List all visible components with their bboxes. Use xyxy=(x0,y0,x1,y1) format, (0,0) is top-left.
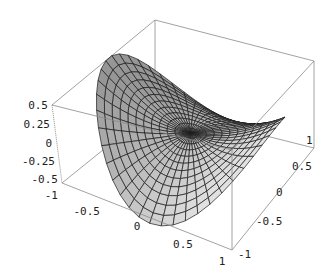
surface-plot: 0.5 0.25 0 -0.25 -0.5 -1 -0.5 0 0.5 1 -1… xyxy=(0,0,332,276)
x-tick: -0.5 xyxy=(74,205,101,218)
z-tick: -0.5 xyxy=(32,173,59,186)
z-tick: 0.25 xyxy=(24,118,51,131)
x-tick: -1 xyxy=(45,189,58,202)
y-tick: 1 xyxy=(306,134,313,147)
x-tick: 0.5 xyxy=(173,238,193,251)
z-tick: 0 xyxy=(45,137,52,150)
y-tick: 0.5 xyxy=(292,160,312,173)
y-tick: -1 xyxy=(238,248,251,261)
mesh-cell xyxy=(181,170,189,178)
z-tick: 0.5 xyxy=(28,99,48,112)
z-tick: -0.25 xyxy=(22,155,55,168)
mesh-cell xyxy=(164,205,176,215)
mesh-cell xyxy=(161,215,174,226)
y-tick: 0 xyxy=(276,186,283,199)
mesh-cell xyxy=(182,163,189,171)
x-tick: 0 xyxy=(134,220,141,233)
x-tick: 1 xyxy=(219,255,226,268)
y-tick: -0.5 xyxy=(256,215,283,228)
